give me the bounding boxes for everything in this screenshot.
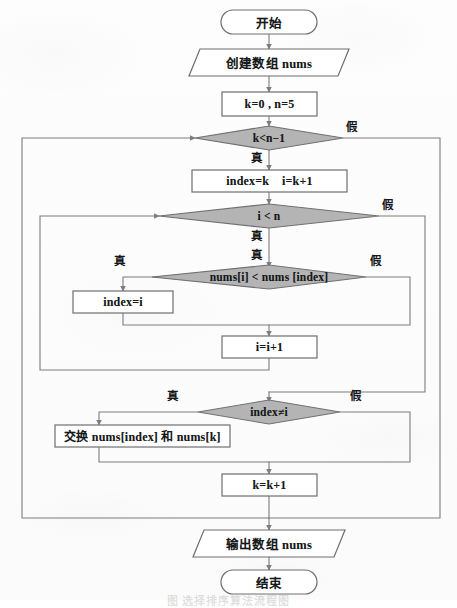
node-cmp-label: nums[i] < nums [index] [174,267,364,287]
node-cond-k-label: k<n−1 [219,128,319,148]
branch-label-cond-i-true: 真 [251,231,262,243]
node-incr-i-label: i=i+1 [222,336,317,358]
node-swap-label: 交换 nums[index] 和 nums[k] [55,425,230,447]
figure-caption: 图 选择排序算法流程图 [0,592,457,608]
node-init-label: k=0 , n=5 [222,92,317,116]
node-cond-ne-label: index≠i [224,402,314,422]
node-output-label: 输出数组 nums [193,530,345,557]
branch-label-cond-k-false: 假 [346,122,357,134]
node-cond-i-label: i < n [229,206,309,226]
node-start-label: 开始 [221,10,317,34]
branch-label-cmp-center-true: 真 [251,250,262,262]
branch-label-cond-i-false: 假 [382,200,393,212]
branch-label-cond-ne-true: 真 [167,391,178,403]
node-setidx-label: index=i [73,291,173,313]
node-create-label: 创建数组 nums [189,49,349,76]
branch-label-cond-ne-false: 假 [350,391,361,403]
node-assign-label: index=k i=k+1 [192,170,347,192]
branch-label-cmp-true: 真 [114,256,125,268]
branch-label-cond-k-true: 真 [251,153,262,165]
node-end-label: 结束 [221,570,317,594]
node-incr-k-label: k=k+1 [222,474,317,496]
branch-label-cmp-false: 假 [370,256,381,268]
